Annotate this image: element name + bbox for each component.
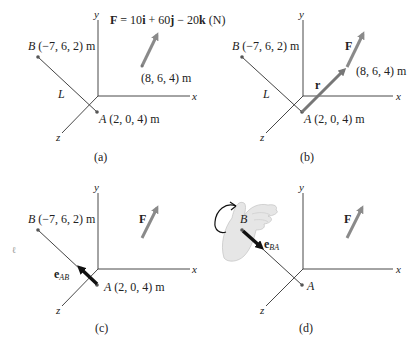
panel-caption-a: (a) [94, 150, 107, 164]
force-vector-F [142, 35, 157, 66]
unit-vector-label: eAB [54, 267, 69, 282]
point-B-dot [36, 55, 40, 59]
y-axis-label: y [298, 8, 304, 20]
panel-caption-c: (c) [95, 321, 108, 335]
x-axis-label: x [395, 263, 401, 275]
unit-vector-label: eBA [264, 237, 279, 252]
point-A-label: A (2, 0, 4) m [103, 280, 165, 294]
position-vector-label: r [315, 78, 321, 92]
z-axis [266, 96, 303, 133]
x-axis-label: x [191, 263, 197, 275]
force-label: F [345, 39, 352, 53]
z-axis [62, 96, 98, 133]
stray-mark: ℓ [12, 245, 16, 255]
force-equation: F = 10i + 60j − 20k (N) [110, 13, 225, 27]
point-A-label: A (2, 0, 4) m [303, 112, 365, 126]
y-axis-label: y [93, 181, 99, 193]
rod-AB [38, 57, 97, 112]
rod-length-label: L [57, 87, 65, 101]
force-point-label: (8, 6, 4) m [141, 71, 192, 85]
force-label: F [344, 212, 351, 226]
z-axis-label: z [55, 304, 61, 316]
force-label: F [139, 212, 146, 226]
y-axis-label: y [298, 181, 304, 193]
panel-caption-b: (b) [300, 150, 314, 164]
point-A-label: A (2, 0, 4) m [98, 112, 160, 126]
point-B-dot [36, 228, 40, 232]
panel-c: y x z B (−7, 6, 2) m A (2, 0, 4) m eAB F… [12, 181, 197, 335]
point-A-label: A [306, 279, 315, 293]
panel-caption-d: (d) [299, 321, 313, 335]
point-B-dot [240, 55, 244, 59]
rod-length-label: L [262, 87, 270, 101]
rod-AB [242, 57, 302, 112]
figure-canvas: y x z B (−7, 6, 2) m A (2, 0, 4) m L (8,… [0, 0, 420, 346]
axes-c: y x z [55, 181, 197, 316]
point-B-label: B (−7, 6, 2) m [28, 39, 96, 53]
z-axis-label: z [259, 304, 265, 316]
position-vector-r [302, 70, 344, 112]
point-A-dot [300, 283, 304, 287]
x-axis-label: x [191, 90, 197, 102]
panel-b: y x z B (−7, 6, 2) m A (2, 0, 4) m L r F… [232, 8, 407, 164]
axes-d: y x z [259, 181, 401, 316]
unit-vector-eAB [80, 268, 97, 284]
z-axis-label: z [55, 131, 61, 143]
force-point-dot [141, 65, 144, 68]
z-axis-label: z [259, 131, 265, 143]
panel-d: y x z B A eBA F (d) [215, 181, 401, 335]
z-axis [266, 269, 303, 306]
point-B-label: B [240, 212, 248, 226]
point-B-label: B (−7, 6, 2) m [232, 39, 300, 53]
x-axis-label: x [395, 90, 401, 102]
point-B-label: B (−7, 6, 2) m [28, 212, 96, 226]
panel-a: y x z B (−7, 6, 2) m A (2, 0, 4) m L (8,… [28, 8, 225, 164]
force-point-label: (8, 6, 4) m [356, 64, 407, 78]
y-axis-label: y [93, 8, 99, 20]
